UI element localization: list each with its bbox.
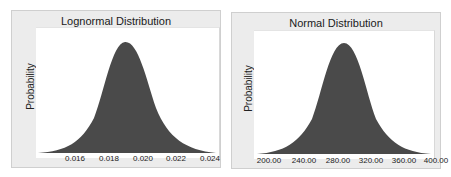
x-tick: 0.024 [200, 154, 220, 163]
y-axis-label: Probability [243, 59, 254, 119]
x-tick: 200.00 [257, 156, 281, 165]
chart-title: Lognormal Distribution [12, 15, 220, 27]
x-tick: 0.020 [133, 154, 153, 163]
normal-chart-panel: Normal Distribution Probability 200.00 2… [231, 12, 441, 169]
y-axis-label: Probability [25, 57, 36, 117]
plot-area [254, 30, 435, 159]
plot-area [36, 27, 220, 158]
distribution-curve [254, 31, 434, 159]
x-tick: 320.00 [359, 156, 383, 165]
x-tick: 0.018 [99, 154, 119, 163]
chart-title: Normal Distribution [232, 17, 440, 29]
x-tick: 0.022 [166, 154, 186, 163]
x-tick: 360.00 [392, 156, 416, 165]
distribution-curve [36, 28, 219, 158]
x-tick: 240.00 [292, 156, 316, 165]
x-tick: 0.016 [65, 154, 85, 163]
x-tick: 400.00 [424, 156, 448, 165]
lognormal-chart-panel: Lognormal Distribution Probability 0.016… [11, 10, 221, 168]
x-tick: 280.00 [326, 156, 350, 165]
